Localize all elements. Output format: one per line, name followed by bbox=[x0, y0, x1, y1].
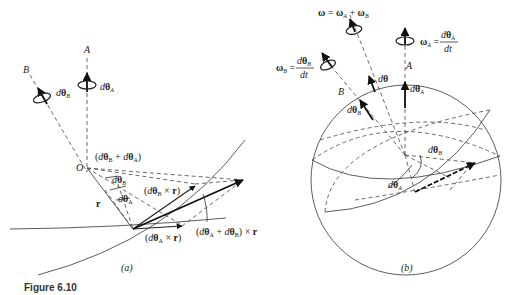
panel-b-label: (b) bbox=[401, 262, 413, 274]
omega-a-equation: ωA = dθA dt bbox=[420, 29, 458, 54]
dashed-o-to-a bbox=[87, 168, 180, 224]
axis-omega-line bbox=[350, 15, 405, 155]
sum-angle-label: (dθB + dθA) bbox=[95, 151, 141, 163]
cross-sum-label: (dθA + dθB) × r bbox=[196, 226, 258, 238]
axis-a-label: A bbox=[83, 44, 91, 55]
dtheta-label-b: dθ bbox=[378, 73, 388, 84]
origin-label: O bbox=[76, 162, 83, 173]
angle-b-label-b: dθB bbox=[428, 144, 442, 156]
omega-b-equation: ωB = dθB dt bbox=[276, 55, 314, 80]
panel-b: ω = ωA + ωB ωA = dθA dt ωB = dθB dt A B … bbox=[276, 7, 501, 275]
panel-a: A B O dθA dθB (dθB + dθA) dθB dθA r (dθB… bbox=[10, 44, 258, 275]
svg-text:ωA =: ωA = bbox=[420, 36, 439, 48]
b-angle-arc-b bbox=[412, 155, 421, 178]
svg-text:ωB =: ωB = bbox=[276, 62, 295, 74]
figure-caption: Figure 6.10 bbox=[24, 282, 77, 293]
axis-b-label-b: B bbox=[338, 86, 344, 97]
great-circle-solid-1 bbox=[312, 156, 500, 179]
great-circle-dashed-3 bbox=[320, 122, 485, 140]
axis-a-label-b: A bbox=[405, 60, 413, 71]
b-dashed-centre-tip bbox=[405, 155, 475, 163]
dtheta-b-arrow-b bbox=[360, 100, 373, 120]
svg-text:dt: dt bbox=[300, 69, 308, 80]
panel-a-label: (a) bbox=[121, 262, 133, 274]
figure-6-10: A B O dθA dθB (dθB + dθA) dθB dθA r (dθB… bbox=[0, 0, 522, 295]
omega-b-rotation-loop-icon bbox=[319, 58, 337, 72]
dtheta-a-label-b: dθA bbox=[410, 83, 424, 95]
cross-a-label: (dθA × r) bbox=[145, 232, 181, 244]
omega-total-label: ω = ωA + ωB bbox=[318, 7, 369, 19]
svg-text:dθB: dθB bbox=[297, 55, 311, 67]
axis-b-label: B bbox=[23, 64, 29, 75]
angle-b-label: dθB bbox=[112, 174, 126, 186]
great-circle-curve-1 bbox=[38, 140, 245, 275]
dtheta-a-label: dθA bbox=[100, 81, 114, 93]
b-resultant-vector bbox=[415, 163, 475, 192]
dtheta-b-label: dθB bbox=[56, 87, 70, 99]
svg-text:dt: dt bbox=[444, 43, 452, 54]
rotation-loop-b-icon bbox=[32, 91, 52, 105]
cross-b-label: (dθB × r) bbox=[144, 185, 180, 197]
dtheta-arrow bbox=[369, 76, 375, 92]
svg-text:dθA: dθA bbox=[441, 29, 455, 41]
r-label: r bbox=[96, 198, 101, 209]
b-dashed-centre-mid bbox=[405, 155, 450, 178]
angle-a-label-b: dθA bbox=[388, 179, 402, 191]
great-circle-curve-2 bbox=[10, 218, 226, 229]
dtheta-b-label-b: dθB bbox=[347, 104, 361, 116]
dashed-o-to-b bbox=[87, 168, 195, 184]
